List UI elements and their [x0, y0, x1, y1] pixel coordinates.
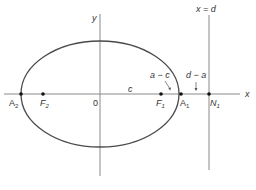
d-minus-a-arrowhead [195, 88, 198, 91]
point-F2 [41, 92, 45, 96]
label-A1: A1 [180, 98, 190, 109]
point-A1 [179, 92, 183, 96]
point-F1 [159, 92, 163, 96]
x-axis-label: x [244, 89, 250, 99]
directrix-label: x = d [195, 4, 217, 14]
y-axis-label: y [91, 13, 97, 23]
label-A2: A2 [9, 98, 19, 109]
a-minus-c-pointer [165, 81, 170, 89]
label-N1: N1 [210, 98, 220, 109]
ellipse-diagram: x y 0 x = d A2 F2 F1 A1 N1 c a − c d − a [0, 0, 256, 190]
origin-label: 0 [93, 98, 98, 108]
annotation-a-minus-c: a − c [150, 70, 170, 80]
label-F1: F1 [156, 98, 165, 109]
point-A2 [19, 92, 23, 96]
annotation-d-minus-a: d − a [186, 70, 206, 80]
annotation-c: c [128, 84, 133, 94]
label-F2: F2 [40, 98, 50, 109]
point-N1 [207, 92, 211, 96]
